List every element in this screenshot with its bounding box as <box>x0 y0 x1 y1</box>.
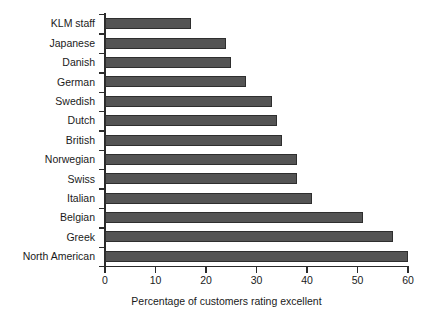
bar-row <box>105 169 408 188</box>
bar-row <box>105 189 408 208</box>
y-axis-category-label: North American <box>0 247 100 266</box>
bar <box>105 18 191 29</box>
x-axis-tick-label: 10 <box>150 275 162 286</box>
bar <box>105 135 282 146</box>
bar-row <box>105 130 408 149</box>
bar-row <box>105 53 408 72</box>
x-axis-tick-label: 30 <box>251 275 263 286</box>
bar <box>105 193 312 204</box>
x-axis-tick <box>306 267 307 273</box>
bar <box>105 173 297 184</box>
bar <box>105 57 231 68</box>
x-axis-tick-label: 40 <box>301 275 313 286</box>
y-axis-category-labels: KLM staffJapaneseDanishGermanSwedishDutc… <box>0 14 100 266</box>
y-axis-category-label: Danish <box>0 53 100 72</box>
x-axis-tick <box>357 267 358 273</box>
bar-row <box>105 14 408 33</box>
y-axis-category-label: Greek <box>0 227 100 246</box>
x-axis-tick <box>104 267 105 273</box>
bar <box>105 212 363 223</box>
y-axis-category-label: Swiss <box>0 169 100 188</box>
bar-row <box>105 111 408 130</box>
x-axis-tick <box>407 267 408 273</box>
bar <box>105 154 297 165</box>
bar-row <box>105 92 408 111</box>
bar-row <box>105 72 408 91</box>
y-axis-category-label: Norwegian <box>0 150 100 169</box>
bar-row <box>105 33 408 52</box>
y-axis-category-label: German <box>0 72 100 91</box>
bar-chart-figure: KLM staffJapaneseDanishGermanSwedishDutc… <box>0 0 435 329</box>
y-axis-category-label: Dutch <box>0 111 100 130</box>
bar <box>105 38 226 49</box>
bar <box>105 231 393 242</box>
y-axis-category-label: Swedish <box>0 92 100 111</box>
x-axis-tick-label: 0 <box>102 275 108 286</box>
x-axis-tick-label: 20 <box>200 275 212 286</box>
bar-row <box>105 150 408 169</box>
y-axis-category-label: Belgian <box>0 208 100 227</box>
x-axis-tick-label: 60 <box>402 275 414 286</box>
plot-area <box>105 14 408 266</box>
bar <box>105 96 272 107</box>
y-axis-category-label: Japanese <box>0 33 100 52</box>
x-axis-tick <box>155 267 156 273</box>
y-axis-category-label: KLM staff <box>0 14 100 33</box>
bar-row <box>105 227 408 246</box>
bar-series <box>105 14 408 266</box>
x-axis-tick <box>256 267 257 273</box>
x-axis-title: Percentage of customers rating excellent <box>0 296 435 307</box>
bar-row <box>105 208 408 227</box>
x-axis-tick <box>205 267 206 273</box>
bar <box>105 115 277 126</box>
bar <box>105 76 246 87</box>
y-axis-category-label: Italian <box>0 189 100 208</box>
x-axis-tick-label: 50 <box>352 275 364 286</box>
bar-row <box>105 247 408 266</box>
bar <box>105 251 408 262</box>
y-axis-category-label: British <box>0 130 100 149</box>
